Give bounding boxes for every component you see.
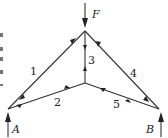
- reaction-b-arrow-icon: [158, 112, 164, 122]
- member-3-arrow-top-icon: [83, 45, 87, 50]
- truss-diagram: F A B 1 2 3 4 5: [0, 0, 168, 138]
- member-4-label: 4: [130, 67, 137, 80]
- member-3-arrow-bottom-icon: [83, 66, 87, 71]
- support-b-label: B: [145, 123, 154, 136]
- member-1-label: 1: [30, 65, 37, 78]
- member-3-label: 3: [88, 54, 95, 67]
- member-5-arrow-right-icon: [125, 99, 131, 103]
- support-a-label: A: [11, 123, 20, 136]
- member-5: [85, 83, 159, 109]
- member-4: [85, 31, 159, 109]
- load-arrow-icon: [82, 18, 88, 28]
- member-1: [8, 31, 85, 109]
- load-label: F: [91, 8, 100, 21]
- reaction-a-arrow-icon: [5, 112, 11, 122]
- member-2-label: 2: [54, 96, 61, 109]
- member-5-label: 5: [113, 98, 120, 111]
